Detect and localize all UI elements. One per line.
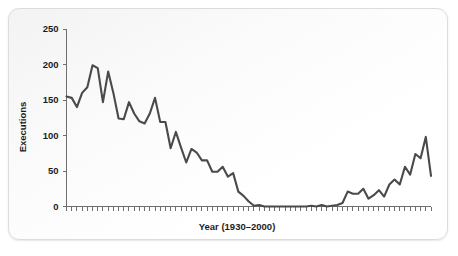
executions-line-chart: 050100150200250 Year (1930–2000) Executi… [9,9,449,241]
y-axis-tick-label: 150 [43,94,59,105]
chart-card: 050100150200250 Year (1930–2000) Executi… [8,8,448,240]
axes [63,29,432,211]
y-axis-tick-label: 50 [48,165,59,176]
executions-series-line [67,65,432,206]
x-axis-ticks [67,207,432,212]
x-axis-title: Year (1930–2000) [199,221,276,232]
y-axis-title: Executions [17,102,28,153]
y-axis-tick-label: 0 [53,201,58,212]
y-axis-tick-label: 200 [43,59,59,70]
y-axis-tick-label: 100 [43,130,59,141]
y-axis-ticks [63,29,67,207]
y-axis-tick-labels: 050100150200250 [43,23,59,212]
y-axis-tick-label: 250 [43,23,59,34]
